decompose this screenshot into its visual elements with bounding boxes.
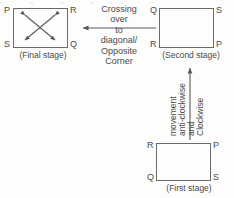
diagram-canvas: o o o o o o P R S Q (Final stage)	[0, 0, 234, 198]
final-stage-corner-top-left: P	[4, 6, 10, 15]
second-stage-corner-bottom-right: P	[216, 40, 222, 49]
transition-line-2: over	[86, 14, 152, 24]
final-stage-corner-bottom-left: S	[4, 40, 10, 49]
final-stage-corner-top-right: R	[70, 6, 77, 15]
first-stage-corner-top-left: R	[147, 141, 154, 150]
figure-first-stage: R P Q S (First stage)	[144, 134, 234, 198]
transition-line-3: to	[86, 25, 152, 35]
transition-line-4: diagonal/	[86, 35, 152, 45]
transition-line-1: Crossing	[86, 4, 152, 14]
figure-final-stage: P R S Q (Final stage)	[0, 0, 86, 70]
first-stage-caption: (First stage)	[144, 184, 234, 193]
second-stage-corner-bottom-left: R	[150, 40, 157, 49]
final-stage-corner-bottom-right: Q	[70, 40, 77, 49]
transition-line-6: Corner	[86, 56, 152, 66]
first-stage-corner-top-right: P	[213, 141, 219, 150]
first-stage-corner-bottom-right: S	[213, 173, 219, 182]
second-stage-caption: (Second stage)	[148, 51, 234, 60]
final-stage-caption: (Final stage)	[0, 51, 86, 60]
second-to-final-label: Crossing over to diagonal/ Opposite Corn…	[86, 4, 152, 66]
second-stage-corner-top-left: Q	[150, 6, 157, 15]
transition-line-5: Opposite	[86, 46, 152, 56]
second-stage-corner-top-right: S	[216, 6, 222, 15]
first-stage-corner-bottom-left: Q	[147, 173, 154, 182]
first-to-second-label-line-1: Clockwise	[196, 98, 205, 136]
crossing-diagonal-arrows-icon	[13, 8, 68, 48]
first-to-second-label-line-3: anti-clockwise	[178, 83, 187, 136]
first-to-second-label-line-4: movement	[169, 96, 178, 136]
first-stage-rectangle	[156, 143, 211, 181]
second-stage-rectangle	[159, 8, 214, 48]
figure-second-stage: Q S R P (Second stage)	[148, 0, 234, 70]
